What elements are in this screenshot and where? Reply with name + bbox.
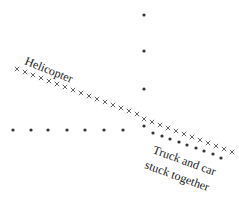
- helicopter-position-cross: [174, 129, 178, 133]
- helicopter-position-cross: [142, 117, 146, 121]
- truck-position-dot: [102, 128, 105, 131]
- combined-position-dot: [194, 146, 197, 149]
- helicopter-position-cross: [135, 112, 139, 116]
- combined-position-dot: [202, 149, 205, 152]
- combined-position-dot: [177, 140, 180, 143]
- helicopter-position-cross: [71, 88, 75, 92]
- helicopter-position-cross: [127, 109, 131, 113]
- helicopter-position-cross: [55, 82, 59, 86]
- truck-position-dot: [11, 128, 14, 131]
- helicopter-position-cross: [103, 100, 107, 104]
- helicopter-position-cross: [230, 150, 234, 154]
- helicopter-position-cross: [63, 85, 67, 89]
- truck-position-dot: [83, 128, 86, 131]
- combined-position-dot: [185, 143, 188, 146]
- helicopter-position-cross: [166, 126, 170, 130]
- truck-position-dot: [65, 128, 68, 131]
- truck-path-dots: [11, 128, 124, 131]
- helicopter-position-cross: [198, 138, 202, 142]
- combined-position-dot: [160, 134, 163, 137]
- helicopter-position-cross: [111, 103, 115, 107]
- helicopter-position-cross: [150, 120, 154, 124]
- helicopter-position-cross: [190, 135, 194, 139]
- car-position-dot: [142, 13, 145, 16]
- helicopter-position-cross: [158, 123, 162, 127]
- helicopter-position-cross: [119, 106, 123, 110]
- helicopter-position-cross: [87, 94, 91, 98]
- car-position-dot: [142, 49, 145, 52]
- combined-position-dot: [168, 137, 171, 140]
- truck-position-dot: [29, 128, 32, 131]
- combined-position-dot: [142, 124, 145, 127]
- helicopter-position-cross: [31, 73, 35, 77]
- helicopter-position-cross: [222, 147, 226, 151]
- helicopter-position-cross: [206, 141, 210, 145]
- helicopter-position-cross: [39, 76, 43, 80]
- car-position-dot: [142, 87, 145, 90]
- combined-position-dot: [151, 131, 154, 134]
- car-path-dots: [142, 13, 145, 90]
- combined-position-dot: [211, 152, 214, 155]
- helicopter-position-cross: [47, 79, 51, 83]
- collision-diagram: Helicopter Truck and car stuck together: [0, 0, 239, 197]
- helicopter-position-cross: [23, 70, 27, 74]
- truck-position-dot: [46, 128, 49, 131]
- combined-position-dot: [219, 156, 222, 159]
- helicopter-path-crosses: [15, 67, 234, 154]
- helicopter-position-cross: [79, 91, 83, 95]
- helicopter-position-cross: [214, 144, 218, 148]
- helicopter-position-cross: [182, 132, 186, 136]
- truck-position-dot: [121, 128, 124, 131]
- helicopter-position-cross: [15, 67, 19, 71]
- helicopter-position-cross: [95, 97, 99, 101]
